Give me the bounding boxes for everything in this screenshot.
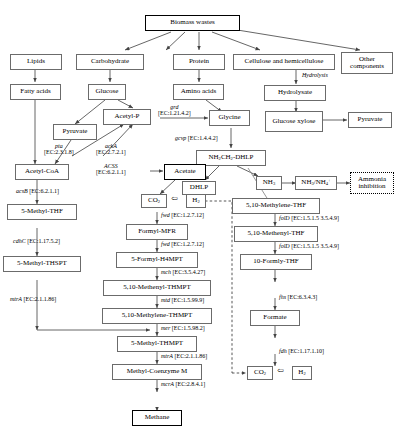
edge-label-mch: mch [EC:3.5.4.27] [161, 269, 205, 275]
node-glucose-xylose[interactable]: Glucose xylose [265, 111, 323, 132]
edge-label-fold-2: folD [EC:1.5.1.5 3.5.4.9] [279, 243, 339, 249]
node-carbohydrate[interactable]: Carbohydrate [76, 54, 144, 70]
node-ammonia-inhibition[interactable]: Ammonia inhibition [350, 172, 394, 194]
node-pyruvate[interactable]: Pyruvate [53, 124, 97, 140]
edge-label-gcvp: gcvp [EC:1.4.4.2] [175, 135, 218, 141]
edge-label-mtra-left: mtrA [EC:2.1.1.86] [10, 296, 56, 302]
node-nh2ch2-dhlp-label: NH2CH2-DHLP [208, 154, 253, 161]
plus-icon-mid: ⇦ [171, 194, 178, 203]
node-lipids[interactable]: Lipids [10, 54, 62, 70]
node-formate[interactable]: Formate [250, 310, 300, 326]
node-5-10-methylene-thf[interactable]: 5,10-Methylene-THF [232, 198, 320, 214]
edge-label-fwd-2: fwd [EC:1.2.7.12] [161, 241, 204, 247]
plus-icon-bot: ⇦ [277, 366, 284, 375]
node-5-methyl-thmpt[interactable]: 5-Methyl-THMPT [117, 336, 197, 352]
node-5-formyl-h4mpt[interactable]: 5-Formyl-H4MPT [116, 252, 198, 268]
edge-label-fwd-1: fwd [EC:1.2.7.12] [161, 212, 204, 218]
node-h2-mid[interactable]: H2 [186, 194, 206, 208]
edge-label-fhs: fhs [EC:6.3.4.3] [279, 294, 317, 300]
node-nh3-label: NH3 [263, 179, 275, 186]
node-hydrolysate[interactable]: Hydrolysate [264, 85, 326, 101]
node-co2-mid[interactable]: CO2 [141, 194, 167, 208]
edge-label-cdhc: cdhC [EC:1.17.5.2] [13, 238, 60, 244]
node-fatty-acids[interactable]: Fatty acids [10, 84, 61, 100]
node-acetyl-coa[interactable]: Acetyl-CoA [15, 164, 69, 180]
node-other-components[interactable]: Other components [341, 52, 393, 74]
node-nh3[interactable]: NH3 [256, 176, 282, 190]
node-h2-bot-label: H2 [298, 369, 305, 376]
edge-label-grd: grd [EC:1.21.4.2] [158, 104, 191, 117]
edge-label-pta: pta [EC:2.3.1.8] [44, 143, 74, 156]
node-nh2ch2-dhlp[interactable]: NH2CH2-DHLP [196, 150, 266, 166]
node-5-10-methenyl-thmpt[interactable]: 5,10-Methenyl-THMPT [103, 280, 211, 296]
edge-label-fold-1: folD [EC:1.5.1.5 3.5.4.9] [279, 215, 339, 221]
node-glycine[interactable]: Glycine [209, 110, 250, 126]
edge-label-acka: ackA [EC:2.7.2.1] [96, 143, 126, 156]
edge-label-hydrolysis: Hydrolysis [302, 72, 328, 78]
node-acetate[interactable]: Acetate [164, 164, 206, 180]
node-formyl-mfr[interactable]: Formyl-MFR [126, 224, 188, 240]
node-methyl-coenzyme-m[interactable]: Methyl-Coenzyme M [112, 364, 202, 380]
node-acetyl-p[interactable]: Acetyl-P [103, 109, 151, 125]
edge-label-acsb: acsB [EC:6.2.1.1] [16, 188, 59, 194]
edge-label-mtra-mid: mtrA [EC:2.1.1.86] [161, 353, 207, 359]
node-protein[interactable]: Protein [173, 54, 225, 70]
node-nh3-nh4[interactable]: NH3/NH4+ [295, 176, 337, 190]
node-5-10-methenyl-thf[interactable]: 5,10-Methenyl-THF [234, 226, 318, 242]
node-10-formly-thf[interactable]: 10-Formly-THF [240, 254, 312, 270]
node-glucose[interactable]: Glucose [88, 84, 126, 100]
edge-label-mtd: mtd [EC:1.5.99.9] [161, 297, 204, 303]
node-co2-bot[interactable]: CO2 [247, 366, 273, 380]
edge-label-mcra: mcrA [EC:2.8.4.1] [161, 381, 205, 387]
edge-label-fdh: fdh [EC:1.17.1.10] [279, 348, 324, 354]
node-5-methyl-thspt[interactable]: 5-Methyl-THSPT [3, 256, 81, 272]
node-co2-mid-label: CO2 [148, 197, 160, 204]
node-amino-acids[interactable]: Amino acids [173, 84, 224, 100]
node-h2-bot[interactable]: H2 [292, 366, 312, 380]
node-5-10-methylene-thmpt[interactable]: 5,10-Methylene-THMPT [102, 308, 212, 324]
node-5-methyl-thf[interactable]: 5-Methyl-THF [7, 204, 77, 220]
node-dhlp[interactable]: DHLP [182, 181, 216, 195]
node-nh3-nh4-label: NH3/NH4+ [301, 179, 330, 186]
node-methane[interactable]: Methane [132, 410, 182, 426]
node-co2-bot-label: CO2 [254, 369, 266, 376]
edge-label-mer: mer [EC:1.5.98.2] [161, 325, 205, 331]
pathway-diagram: Biomass wastes Lipids Carbohydrate Prote… [0, 0, 397, 429]
node-biomass-wastes[interactable]: Biomass wastes [145, 15, 240, 31]
edge-label-acss: ACSS [EC:6.2.1.1] [96, 163, 126, 176]
node-h2-mid-label: H2 [192, 197, 199, 204]
node-cellulose-hemicellulose[interactable]: Cellulose and hemicellulose [233, 54, 335, 70]
node-pyruvate-right[interactable]: Pyruvate [348, 112, 392, 128]
